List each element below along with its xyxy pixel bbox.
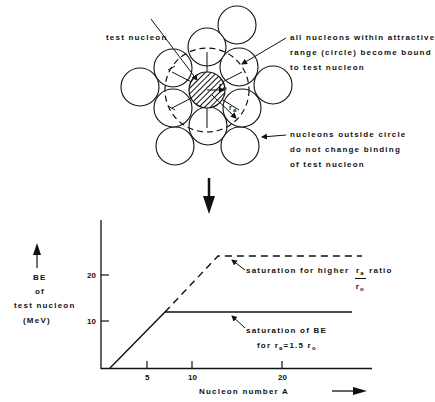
x-axis-label: Nucleon number A — [199, 387, 289, 397]
y-tick-label-20: 20 — [87, 271, 96, 280]
down-arrow-icon — [203, 196, 215, 214]
attractive-range-label-1: all nucleons within attractive — [290, 33, 435, 43]
outside-circle-label-3: of test nucleon — [290, 160, 365, 170]
y-axis-label-test-nucleon: test nucleon — [14, 301, 76, 311]
x-tick-label-10: 10 — [188, 373, 197, 382]
x-tick-label-20: 20 — [278, 373, 287, 382]
dashed-annotation-pointer — [232, 260, 245, 270]
solid-annotation-label-1: saturation of BE — [246, 326, 327, 336]
right-arrow-icon — [353, 387, 367, 395]
solid-annotation-label-2: for ra=1.5 ro — [257, 341, 317, 353]
outside-circle-pointer — [262, 135, 286, 137]
ra-label: ra — [229, 103, 237, 115]
series-solid — [110, 312, 352, 368]
nucleon — [154, 49, 192, 87]
outside-circle-label-1: nucleons outside circle — [290, 130, 407, 140]
solid-annotation-pointer — [232, 316, 245, 328]
dashed-annotation-label: saturation for higher ra ro ratio — [246, 266, 393, 294]
y-axis-label-of: of — [35, 287, 45, 297]
attractive-range-label-2: range (circle) become bound — [290, 48, 432, 58]
nucleon — [156, 127, 194, 165]
x-tick-label-5: 5 — [145, 373, 149, 382]
nucleon — [189, 107, 227, 145]
y-axis-label-be: BE — [33, 273, 47, 283]
ra-over-r0-fraction: ra ro — [355, 266, 366, 294]
test-nucleon-label: test nucleon — [106, 33, 168, 43]
up-arrow-icon — [33, 243, 41, 255]
y-tick-label-10: 10 — [87, 317, 96, 326]
nucleon — [221, 127, 259, 165]
nucleon — [121, 68, 159, 106]
nucleon — [254, 66, 292, 104]
r0-label: ro — [219, 81, 228, 93]
outside-circle-label-2: do not change binding — [290, 145, 401, 155]
y-axis-label-unit: (MeV) — [23, 316, 51, 326]
attractive-range-label-3: to test nucleon — [290, 63, 365, 73]
